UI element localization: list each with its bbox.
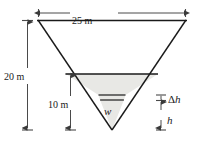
top-width-label: 25 m bbox=[72, 16, 92, 26]
water-body-upper-fill bbox=[66, 74, 158, 95]
slab-depth-dimension bbox=[156, 102, 166, 130]
slab-thickness-dimension bbox=[156, 95, 166, 101]
water-depth-label: 10 m bbox=[48, 100, 68, 110]
differential-slab-fill bbox=[99, 95, 126, 100]
slab-thickness-variable: h bbox=[175, 93, 181, 105]
slab-width-label: w bbox=[104, 106, 111, 117]
slab-depth-label: h bbox=[167, 115, 173, 126]
tank-cross-section-figure: 25 m 20 m 10 m Δh h w bbox=[0, 0, 199, 148]
top-width-dimension bbox=[39, 9, 186, 17]
slab-thickness-label: Δh bbox=[168, 94, 181, 105]
total-depth-label: 20 m bbox=[4, 72, 24, 82]
